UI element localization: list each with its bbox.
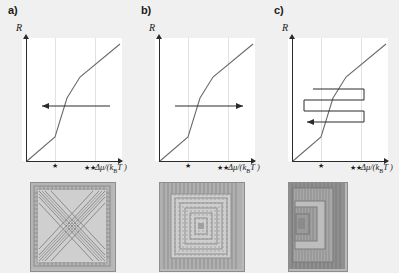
x-tick-star-single-c: ★ [318, 163, 324, 170]
x-axis-label-main-b: Δμ/(k [228, 162, 246, 172]
panel-label-a: a) [8, 4, 17, 16]
plot-b: R ★ ★★Δμ/(kBT ) [143, 24, 255, 169]
serpentine-arrowhead-c [307, 119, 314, 125]
growth-curve-b [143, 24, 255, 169]
figure-root: a) R ★ ★★Δμ/(kBT ) [0, 0, 399, 273]
panel-label-b: b) [141, 4, 151, 16]
x-axis-label-a: ★★Δμ/(kBT ) [84, 162, 127, 174]
annotation-serpentine-arrow-c [304, 89, 364, 122]
x-tick-star-single-b: ★ [185, 163, 191, 170]
x-axis-label-b: ★★Δμ/(kBT ) [217, 162, 260, 174]
annotation-arrow-left-a [42, 103, 110, 109]
x-tick-star-double-a: ★★ [84, 164, 95, 172]
growth-curve-a [10, 24, 122, 169]
x-axis-label-main-c: Δμ/(k [361, 162, 379, 172]
annotation-arrow-right-b [175, 103, 243, 109]
morphology-image-a [30, 182, 116, 272]
morphology-wrap-c [266, 180, 399, 273]
growth-curve-c [276, 24, 388, 169]
x-axis-label-tail-c: T ) [383, 162, 393, 172]
x-axis-label-c: ★★Δμ/(kBT ) [350, 162, 393, 174]
panel-label-c: c) [274, 4, 283, 16]
morphology-image-b [159, 182, 245, 272]
x-tick-star-double-b: ★★ [217, 164, 228, 172]
morphology-image-c [288, 182, 348, 272]
panel-c: c) R ★ ★★Δμ/(kBT ) [266, 0, 399, 273]
x-tick-star-single-a: ★ [52, 163, 58, 170]
morphology-wrap-b [133, 180, 266, 273]
morphology-wrap-a [0, 180, 133, 273]
plot-c: R ★ ★★Δμ/(kBT ) [276, 24, 388, 169]
x-axis-label-tail-b: T ) [250, 162, 260, 172]
panel-b: b) R ★ ★★Δμ/(kBT ) [133, 0, 266, 273]
panel-a: a) R ★ ★★Δμ/(kBT ) [0, 0, 133, 273]
plot-a: R ★ ★★Δμ/(kBT ) [10, 24, 122, 169]
x-axis-label-main-a: Δμ/(k [95, 162, 113, 172]
x-axis-label-tail-a: T ) [117, 162, 127, 172]
x-tick-star-double-c: ★★ [350, 164, 361, 172]
